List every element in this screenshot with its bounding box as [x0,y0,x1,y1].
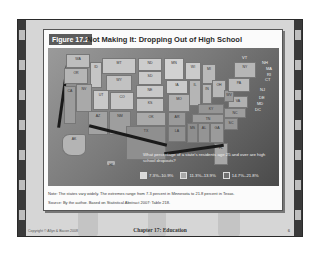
figure-badge: Figure 17.2 [49,34,92,45]
label-md: MD [257,102,263,106]
figure-source: Source: By the author. Based on Statisti… [48,200,170,205]
state-ia: IA [166,80,188,94]
state-pa: PA [228,78,250,92]
legend-swatch [223,172,230,179]
legend-swatch [140,172,147,179]
state-ks: KS [136,98,164,112]
figure-note: Note: The states vary widely. The extrem… [48,191,234,196]
state-nv: NV [76,84,92,112]
state-in: IN [202,84,212,104]
state-ok: OK [136,112,166,126]
state-sd: SD [138,71,162,85]
label-vt: VT [242,56,247,60]
state-hi: HI [106,160,116,166]
legend-label: 11.3%–13.9% [189,173,215,178]
state-mn: MN [164,58,184,80]
state-ne: NE [136,85,164,98]
legend-label: 14.7%–21.8% [232,173,259,178]
label-ct: CT [265,78,270,82]
state-wi: WI [185,62,201,80]
figure-title: Not Making It: Dropping Out of High Scho… [87,35,242,44]
state-or: OR [64,68,88,84]
us-map: WA OR ID MT WY NV CA UT CO AZ NM ND SD N… [48,48,279,186]
slide-footer: Copyright © Allyn & Bacon 2008 Chapter 1… [18,225,302,233]
state-tn: TN [192,114,224,123]
state-ca: CA [64,86,76,124]
page-number: 6 [288,228,290,233]
legend-label: 7.3%–10.9% [149,173,173,178]
filmstrip-right [294,20,302,236]
state-co: CO [110,92,134,110]
label-de: DE [259,96,265,100]
label-nj: NJ [260,88,265,92]
map-question: What percentage of a state's residents a… [143,152,275,164]
state-ms: MS [187,123,198,143]
legend-item-high: 14.7%–21.8% [223,172,259,179]
state-mo: MO [168,94,190,112]
label-dc: DC [255,108,261,112]
state-nd: ND [138,58,162,71]
label-ma: MA [266,67,272,71]
chapter-title: Chapter 17: Education [18,227,302,233]
state-ga: GA [210,123,224,143]
state-il: IL [189,80,201,106]
figure-card: Figure 17.2 Not Making It: Dropping Out … [43,29,283,211]
legend-item-low: 7.3%–10.9% [140,172,173,179]
state-wy: WY [106,75,132,91]
state-ak: AK [62,134,86,156]
state-wa: WA [66,54,90,68]
state-nc: NC [224,108,246,118]
state-ky: KY [198,104,224,114]
slide: Figure 17.2 Not Making It: Dropping Out … [17,19,303,237]
filmstrip-left [18,20,26,236]
state-al: AL [198,123,210,143]
state-sc: SC [224,118,238,130]
label-nh: NH [262,61,268,65]
legend-swatch [180,172,187,179]
state-ny: NY [234,62,256,78]
state-mt: MT [102,58,136,74]
state-ar: AR [168,112,186,126]
state-la: LA [168,126,186,142]
map-legend: 7.3%–10.9% 11.3%–13.9% 14.7%–21.8% [140,172,259,179]
state-ut: UT [93,90,109,110]
legend-item-mid: 11.3%–13.9% [180,172,215,179]
